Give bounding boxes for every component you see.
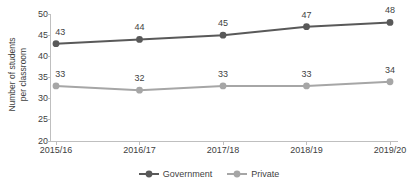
x-axis-tick-label: 2016/17 bbox=[123, 145, 156, 156]
data-point-marker bbox=[387, 78, 394, 85]
series-private bbox=[53, 78, 394, 93]
x-axis-tick-label: 2015/16 bbox=[40, 145, 73, 156]
data-point-marker bbox=[303, 23, 310, 30]
x-axis-tick-label: 2019/20 bbox=[374, 145, 407, 156]
series-lines bbox=[53, 19, 394, 94]
data-point-marker bbox=[136, 36, 143, 43]
x-axis-tick-labels: 2015/162016/172017/182018/192019/20 bbox=[0, 145, 417, 159]
data-point-marker bbox=[220, 32, 227, 39]
data-point-label: 43 bbox=[55, 28, 65, 37]
legend-item-label: Private bbox=[251, 169, 279, 179]
legend-marker-icon bbox=[138, 169, 160, 179]
data-point-label: 47 bbox=[301, 11, 311, 20]
data-point-marker bbox=[53, 83, 60, 90]
chart-legend: GovernmentPrivate bbox=[0, 166, 417, 182]
legend-item-label: Government bbox=[163, 169, 213, 179]
legend-item-government[interactable]: Government bbox=[138, 169, 213, 179]
data-point-label: 34 bbox=[385, 66, 395, 75]
data-point-marker bbox=[303, 83, 310, 90]
data-point-marker bbox=[220, 83, 227, 90]
data-point-marker bbox=[136, 87, 143, 94]
data-point-label: 44 bbox=[134, 23, 144, 32]
data-point-label: 48 bbox=[385, 6, 395, 15]
data-point-marker bbox=[387, 19, 394, 26]
data-point-marker bbox=[53, 40, 60, 47]
legend-marker-icon bbox=[226, 169, 248, 179]
line-chart: Number of students per classroom 5045403… bbox=[0, 0, 417, 185]
x-axis-tick-label: 2017/18 bbox=[207, 145, 240, 156]
x-axis-tick-label: 2018/19 bbox=[290, 145, 323, 156]
data-point-label: 32 bbox=[134, 74, 144, 83]
data-point-label: 33 bbox=[55, 70, 65, 79]
data-point-label: 33 bbox=[301, 70, 311, 79]
legend-item-private[interactable]: Private bbox=[226, 169, 279, 179]
data-point-label: 45 bbox=[218, 19, 228, 28]
data-point-label: 33 bbox=[218, 70, 228, 79]
